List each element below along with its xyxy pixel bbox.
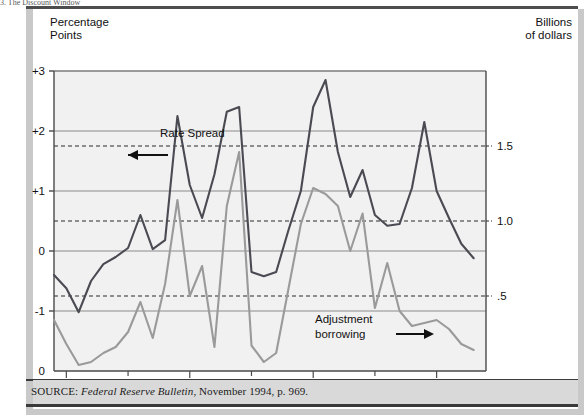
ytick-label-right-1.0: 1.0 (497, 215, 513, 227)
ytick-label-right-1.5: 1.5 (497, 140, 513, 152)
source-rest: , November 1994, p. 969. (193, 385, 308, 397)
figure-page: 3. The Discount Window Percentage Points… (0, 0, 586, 420)
annotation-rate-spread-label: Rate Spread (160, 127, 225, 139)
ytick-label-left-zero-bottom: 0 (39, 365, 45, 377)
source-publication: Federal Reserve Bulletin (81, 385, 193, 397)
ytick-label-left--1: -1 (35, 305, 45, 317)
source-rule-bottom (26, 404, 578, 407)
source-note: SOURCE: Federal Reserve Bulletin, Novemb… (31, 385, 308, 397)
ytick-label-left-+1: +1 (32, 185, 45, 197)
ytick-label-left-+2: +2 (32, 125, 45, 137)
annotation-adjustment-borrowing-line2: borrowing (315, 328, 366, 340)
source-prefix: SOURCE: (31, 385, 78, 397)
annotation-adjustment-borrowing-line1: Adjustment (315, 313, 373, 325)
ytick-label-left-0: 0 (39, 245, 45, 257)
ytick-label-right-.5: .5 (497, 290, 507, 302)
line-chart: +3+2+10-101.51.0.51960197019801990YearRa… (0, 0, 586, 420)
ytick-label-left-+3: +3 (32, 65, 45, 77)
